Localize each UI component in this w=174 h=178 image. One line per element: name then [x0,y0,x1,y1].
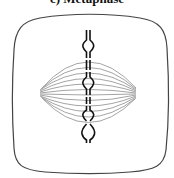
metaphase-diagram [0,0,174,178]
chromosomes [82,30,95,143]
chromosome-5 [82,124,95,143]
spindle-fibers [40,62,136,123]
chromosome-1 [83,30,94,58]
chromosome-4 [83,106,94,121]
